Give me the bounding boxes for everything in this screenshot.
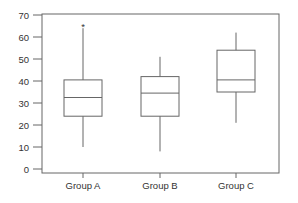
box-group-a: * <box>64 21 102 147</box>
iqr-box <box>217 50 255 92</box>
box-group-c <box>217 33 255 123</box>
iqr-box <box>141 77 179 117</box>
y-tick-label: 10 <box>18 142 29 153</box>
box-plot-chart: 010203040506070 Group AGroup BGroup C * <box>0 0 298 203</box>
x-tick-label: Group A <box>66 180 102 191</box>
x-tick-label: Group C <box>218 180 254 191</box>
outlier-marker: * <box>81 21 85 32</box>
x-tick-label: Group B <box>142 180 177 191</box>
y-tick-label: 20 <box>18 120 29 131</box>
x-axis: Group AGroup BGroup C <box>66 173 255 191</box>
iqr-box <box>64 80 102 116</box>
y-axis: 010203040506070 <box>18 10 42 175</box>
boxes: * <box>64 21 255 151</box>
y-tick-label: 60 <box>18 32 29 43</box>
y-tick-label: 0 <box>24 164 29 175</box>
y-tick-label: 50 <box>18 54 29 65</box>
y-tick-label: 70 <box>18 10 29 21</box>
y-tick-label: 40 <box>18 76 29 87</box>
y-tick-label: 30 <box>18 98 29 109</box>
box-group-b <box>141 57 179 152</box>
